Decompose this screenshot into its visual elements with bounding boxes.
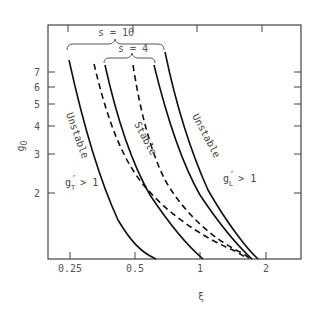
y-tick-label-3: 3 xyxy=(34,149,40,160)
x-tick-label-1: 1 xyxy=(197,263,203,274)
svg-text:gO: gO xyxy=(15,140,29,151)
region-unstable-left: Unstable xyxy=(64,111,91,160)
curve-s4-right-dashed xyxy=(133,65,250,259)
x-tick-label-2: 2 xyxy=(263,263,269,274)
gT-sub: T xyxy=(71,184,76,192)
gL-condition: g′L> 1 xyxy=(223,170,256,188)
gT-rest: > 1 xyxy=(80,177,98,188)
s4-brace xyxy=(104,53,155,63)
curve-s4-right-solid xyxy=(154,65,252,259)
s4-label: s = 4 xyxy=(118,43,148,54)
curve-s10-left-solid xyxy=(69,60,156,259)
y-axis-label: gO xyxy=(15,140,29,151)
s10-label: s = 10 xyxy=(98,27,134,38)
curve-s4-left-dashed xyxy=(94,64,247,259)
x-axis-label: ξ xyxy=(198,291,204,302)
y-tick-label-5: 5 xyxy=(34,99,40,110)
s10-brace xyxy=(67,39,164,50)
y-tick-label-4: 4 xyxy=(34,121,40,132)
region-stable: Stable xyxy=(132,120,159,157)
curve-s4-left-solid xyxy=(105,65,203,259)
y-ticks-left xyxy=(48,72,55,193)
stability-chart: 7 6 5 4 3 2 0.25 0.5 1 2 ξ gO s = 10 s =… xyxy=(0,0,316,313)
y-axis-label-sub: O xyxy=(20,140,29,145)
y-tick-label-2: 2 xyxy=(34,188,40,199)
gT-condition: g′T> 1 xyxy=(65,174,98,192)
x-ticks-bottom xyxy=(70,252,266,259)
x-tick-label-0.5: 0.5 xyxy=(126,263,144,274)
y-tick-label-7: 7 xyxy=(34,67,40,78)
x-tick-label-0.25: 0.25 xyxy=(58,263,82,274)
y-ticks-right xyxy=(294,72,301,193)
region-unstable-right: Unstable xyxy=(190,112,222,160)
gL-rest: > 1 xyxy=(238,173,256,184)
y-tick-label-6: 6 xyxy=(34,82,40,93)
gL-sub: L xyxy=(229,180,233,188)
